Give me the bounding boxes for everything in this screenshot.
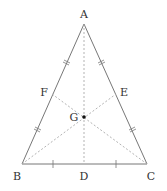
label-c: C xyxy=(147,170,155,183)
centroid-point xyxy=(82,115,86,119)
median-cf xyxy=(52,94,147,164)
label-b: B xyxy=(13,170,21,183)
label-e: E xyxy=(120,86,128,99)
label-f: F xyxy=(40,86,48,99)
median-be xyxy=(22,94,116,164)
label-a: A xyxy=(79,8,89,21)
label-d: D xyxy=(80,170,89,183)
label-g: G xyxy=(70,111,79,124)
triangle-diagram: A F E G B D C xyxy=(0,0,167,191)
side-ab xyxy=(22,24,84,164)
